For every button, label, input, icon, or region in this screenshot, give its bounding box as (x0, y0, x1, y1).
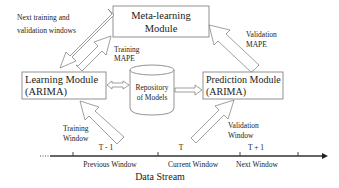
window-label-next: Next Window (236, 160, 278, 169)
meta-learning-label-1: Meta-learning (131, 10, 191, 21)
time-label-prev: T - 1 (99, 143, 114, 152)
training-mape-label-2: MAPE (114, 54, 135, 63)
learning-module: Learning Module (ARIMA) (22, 72, 106, 99)
prediction-module-label-2: (ARIMA) (206, 86, 246, 98)
training-mape-arrow-icon (76, 36, 111, 71)
meta-learning-module: Meta-learning Module (113, 6, 209, 37)
data-stream-label: Data Stream (135, 171, 185, 182)
next-windows-label-1: Next training and (17, 13, 70, 22)
learning-repository-double-arrow-icon (107, 81, 129, 89)
repository-label-1: Repository (136, 83, 169, 92)
validation-window-label-2: Window (228, 131, 254, 140)
repository-label-2: of Models (137, 93, 168, 102)
validation-mape-label-2: MAPE (246, 40, 267, 49)
data-stream-timeline (40, 152, 328, 159)
validation-mape-label-1: Validation (246, 30, 277, 39)
training-window-label-1: Training (63, 124, 89, 133)
next-windows-label-2: validation windows (17, 26, 76, 35)
learning-module-label-2: (ARIMA) (25, 86, 67, 98)
window-label-current: Current Window (168, 160, 219, 169)
training-window-label-2: Window (63, 134, 89, 143)
window-label-prev: Previous Window (83, 160, 137, 169)
learning-module-label-1: Learning Module (25, 74, 99, 85)
time-label-current: T (179, 143, 184, 152)
repository-of-models: Repository of Models (130, 65, 174, 115)
prediction-module: Prediction Module (ARIMA) (203, 72, 283, 99)
repository-prediction-arrow-icon (175, 85, 202, 95)
time-label-next: T + 1 (248, 143, 264, 152)
prediction-module-label-1: Prediction Module (206, 74, 281, 85)
meta-learning-label-2: Module (145, 23, 178, 34)
validation-window-label-1: Validation (228, 121, 259, 130)
diagram-canvas: Meta-learning Module Learning Module (AR… (0, 0, 339, 188)
training-mape-label-1: Training (114, 45, 140, 54)
